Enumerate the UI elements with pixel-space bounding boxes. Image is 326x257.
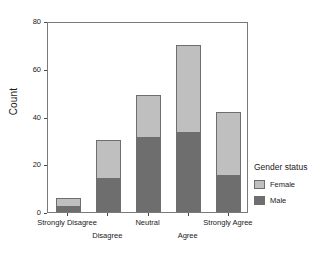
- bar-segment-male[interactable]: [56, 207, 81, 212]
- bar-segment-female[interactable]: [136, 95, 161, 138]
- x-tick-label: Disagree: [92, 232, 122, 240]
- x-tick-label: Strongly Agree: [203, 219, 252, 227]
- bar-group[interactable]: [56, 198, 81, 212]
- y-tick-label: 40: [23, 114, 41, 122]
- legend-swatch-icon: [254, 180, 265, 189]
- x-tick-mark: [148, 213, 149, 216]
- legend: Gender status FemaleMale: [254, 162, 326, 212]
- x-tick-mark: [107, 213, 108, 216]
- x-tick-label: Neutral: [135, 219, 159, 227]
- y-tick-mark: [44, 213, 47, 214]
- bar-group[interactable]: [216, 112, 241, 212]
- bar-segment-female[interactable]: [216, 112, 241, 176]
- legend-item-label: Male: [270, 196, 286, 205]
- y-axis-title: Count: [8, 67, 19, 137]
- legend-swatch-icon: [254, 196, 265, 205]
- y-tick-label: 60: [23, 66, 41, 74]
- x-tick-label: Agree: [178, 232, 198, 240]
- x-tick-label: Strongly Disagree: [37, 219, 97, 227]
- x-tick-mark: [188, 213, 189, 216]
- x-tick-mark: [228, 213, 229, 216]
- bar-segment-male[interactable]: [216, 176, 241, 212]
- bar-segment-male[interactable]: [96, 179, 121, 212]
- bar-group[interactable]: [96, 140, 121, 212]
- legend-title: Gender status: [254, 162, 326, 172]
- bar-segment-male[interactable]: [176, 133, 201, 212]
- legend-item-male[interactable]: Male: [254, 196, 326, 205]
- x-tick-mark: [67, 213, 68, 216]
- legend-items: FemaleMale: [254, 180, 326, 205]
- y-tick-label: 0: [23, 209, 41, 217]
- bar-segment-female[interactable]: [96, 140, 121, 178]
- bar-group[interactable]: [176, 45, 201, 212]
- bar-segment-female[interactable]: [176, 45, 201, 133]
- legend-item-female[interactable]: Female: [254, 180, 326, 189]
- bars-container: [48, 23, 247, 212]
- legend-item-label: Female: [270, 180, 295, 189]
- y-tick-label: 20: [23, 161, 41, 169]
- bar-group[interactable]: [136, 95, 161, 212]
- y-tick-label: 80: [23, 18, 41, 26]
- plot-area: [47, 22, 248, 213]
- stacked-bar-chart: Count 806040200 Strongly DisagreeDisagre…: [0, 0, 326, 257]
- bar-segment-male[interactable]: [136, 138, 161, 212]
- bar-segment-female[interactable]: [56, 198, 81, 208]
